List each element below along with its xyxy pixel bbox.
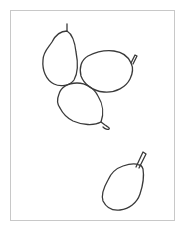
pears-drawing: [0, 0, 178, 231]
pear-middle: [58, 83, 110, 129]
stem: [131, 55, 137, 64]
pear-top-left: [43, 24, 77, 86]
stem: [101, 122, 109, 129]
pear-bottom-right: [102, 152, 146, 210]
